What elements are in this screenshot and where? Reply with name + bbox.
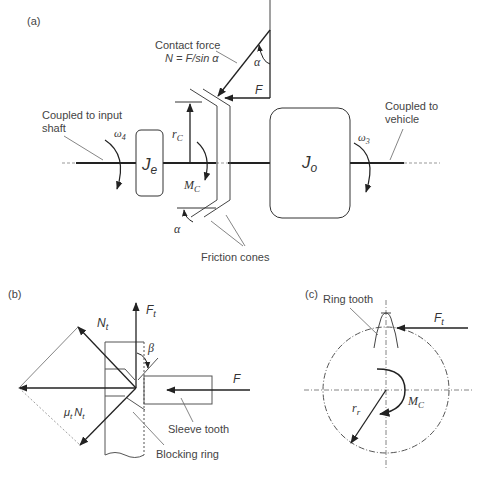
- contact-force-equation: N = F/sin α: [165, 52, 219, 64]
- blocking-ring-outline: [105, 342, 144, 455]
- input-callout: [64, 136, 103, 160]
- beta-arc: [137, 353, 148, 368]
- friction-force-arrow: [80, 388, 136, 445]
- mc-moment-arrow: [377, 369, 405, 414]
- panel-c-tag: (c): [305, 288, 318, 300]
- omega3-label: ω3: [358, 131, 370, 146]
- alpha-top-label: α: [254, 55, 261, 69]
- chamfer-line: [138, 358, 158, 380]
- synchronizer-diagram: (a) Je Jo rC α Friction cones: [0, 0, 488, 484]
- mc-arrow: [197, 142, 207, 180]
- construction-line-top: [19, 327, 78, 388]
- mc-label: MC: [407, 394, 425, 410]
- input-label-line1: Coupled to input: [42, 109, 122, 121]
- ft-label: Ft: [146, 303, 156, 319]
- force-f-label: F: [255, 83, 263, 97]
- nt-arrow: [78, 327, 136, 388]
- vehicle-label-line2: vehicle: [385, 113, 419, 125]
- beta-label: β: [147, 341, 154, 355]
- friction-cones-label: Friction cones: [201, 251, 270, 263]
- omega3-arrow: [354, 143, 370, 192]
- rr-label: rr: [352, 401, 361, 417]
- mc-label: MC: [183, 178, 201, 194]
- panel-b: (b) F Ft Nt μtNt β Sleeve tooth: [8, 288, 250, 460]
- mu-nt-label: μtNt: [63, 406, 85, 421]
- blocking-ring-break: [105, 453, 144, 458]
- panel-a: (a) Je Jo rC α Friction cones: [27, 0, 440, 263]
- nt-label: Nt: [97, 316, 109, 332]
- blocking-ring-label: Blocking ring: [156, 448, 219, 460]
- contact-force-label: Contact force: [155, 39, 220, 51]
- omega4-label: ω4: [114, 127, 126, 142]
- friction-cone-inner: [190, 89, 217, 217]
- ring-tooth-callout: [350, 308, 378, 335]
- alpha-top-arc: [259, 45, 270, 64]
- panel-a-tag: (a): [27, 15, 40, 27]
- contact-force-callout: [216, 51, 237, 63]
- ft-label: Ft: [434, 311, 444, 327]
- friction-callout-1: [211, 221, 243, 246]
- vehicle-label-line1: Coupled to: [385, 100, 438, 112]
- blocking-ring-callout: [133, 412, 164, 445]
- rc-label: rC: [172, 127, 184, 143]
- input-label-line2: shaft: [42, 122, 66, 134]
- force-f-label: F: [233, 372, 241, 386]
- ring-tooth-label: Ring tooth: [323, 293, 373, 305]
- panel-b-tag: (b): [8, 288, 21, 300]
- panel-c: (c) Ring tooth Ft MC rr: [304, 288, 472, 470]
- sleeve-tooth-callout: [181, 398, 193, 422]
- vehicle-callout: [390, 129, 403, 160]
- sleeve-tooth-label: Sleeve tooth: [168, 423, 229, 435]
- alpha-bottom-label: α: [174, 222, 181, 236]
- omega4-arrow: [105, 140, 121, 189]
- friction-callout-2: [226, 215, 245, 246]
